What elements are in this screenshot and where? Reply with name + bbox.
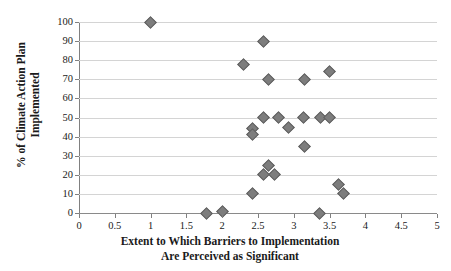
gridline-y-30 <box>79 156 437 157</box>
data-point <box>323 65 336 78</box>
x-tick-1.5 <box>186 214 187 218</box>
x-tick-4.5 <box>401 214 402 218</box>
x-axis-title-line1: Extent to Which Barriers to Implementati… <box>60 234 400 249</box>
data-point <box>272 111 285 124</box>
x-tick-label-5: 5 <box>422 220 451 232</box>
x-tick-label-1.5: 1.5 <box>171 220 201 232</box>
data-point <box>338 188 351 201</box>
x-tick-0.5 <box>115 214 116 218</box>
x-tick-3.5 <box>330 214 331 218</box>
data-point <box>257 35 270 48</box>
x-tick-label-3.5: 3.5 <box>315 220 345 232</box>
y-tick-label-0: 0 <box>47 208 73 218</box>
x-tick-label-3: 3 <box>279 220 309 232</box>
data-point <box>257 111 270 124</box>
x-tick-label-2.5: 2.5 <box>243 220 273 232</box>
data-point <box>297 111 310 124</box>
data-point <box>200 207 213 220</box>
y-axis-title-line2: Implemented <box>28 5 42 205</box>
y-tick-label-100: 100 <box>47 17 73 27</box>
data-point <box>144 16 157 29</box>
gridline-y-80 <box>79 60 437 61</box>
data-point <box>313 207 326 220</box>
x-tick-label-0: 0 <box>64 220 94 232</box>
x-axis-title-line2: Are Perceived as Significant <box>60 249 400 264</box>
x-tick-0 <box>79 214 80 218</box>
gridline-y-40 <box>79 137 437 138</box>
x-tick-2 <box>222 214 223 218</box>
x-tick-5 <box>437 214 438 218</box>
x-tick-2.5 <box>258 214 259 218</box>
x-tick-1 <box>151 214 152 218</box>
y-tick-label-30: 30 <box>47 151 73 161</box>
y-tick-label-60: 60 <box>47 93 73 103</box>
gridline-y-60 <box>79 98 437 99</box>
x-tick-label-2: 2 <box>207 220 237 232</box>
data-point <box>262 73 275 86</box>
gridline-y-70 <box>79 79 437 80</box>
data-point <box>247 188 260 201</box>
data-point <box>282 121 295 134</box>
data-point <box>323 111 336 124</box>
y-tick-label-70: 70 <box>47 74 73 84</box>
y-tick-label-10: 10 <box>47 189 73 199</box>
y-tick-label-90: 90 <box>47 36 73 46</box>
x-axis-title: Extent to Which Barriers to Implementati… <box>60 234 400 263</box>
x-tick-4 <box>365 214 366 218</box>
x-tick-label-4: 4 <box>350 220 380 232</box>
x-tick-label-1: 1 <box>136 220 166 232</box>
plot-area <box>79 22 437 213</box>
x-tick-label-4.5: 4.5 <box>386 220 416 232</box>
x-tick-3 <box>294 214 295 218</box>
data-point <box>298 73 311 86</box>
scatter-chart: % of Climate Action Plan Implemented 010… <box>0 0 451 271</box>
gridline-y-100 <box>79 22 437 23</box>
data-point <box>298 140 311 153</box>
y-tick-label-40: 40 <box>47 132 73 142</box>
x-tick-label-0.5: 0.5 <box>100 220 130 232</box>
y-tick-label-50: 50 <box>47 113 73 123</box>
y-tick-label-80: 80 <box>47 55 73 65</box>
y-tick-label-20: 20 <box>47 170 73 180</box>
y-axis-title-line1: % of Climate Action Plan <box>14 5 28 205</box>
